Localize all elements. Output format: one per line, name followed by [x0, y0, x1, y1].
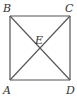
vertex-label-b: B	[2, 2, 11, 15]
intersection-label-e: E	[34, 34, 43, 47]
vertex-label-c: C	[65, 2, 74, 15]
vertex-label-a: A	[2, 84, 11, 97]
vertex-label-d: D	[65, 84, 75, 97]
square-diagram: B C E A D	[0, 0, 77, 98]
geometry-diagram: B C E A D	[0, 0, 77, 98]
